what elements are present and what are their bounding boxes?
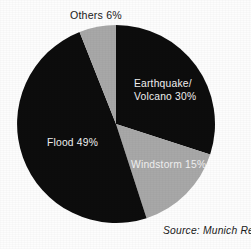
pie-chart-svg: Earthquake/ Volcano 30% Flood 49% Windst… <box>0 0 251 249</box>
source-annotation: Source: Munich Re <box>163 225 251 236</box>
slice-label-flood: Flood 49% <box>47 137 98 148</box>
slice-label-windstorm: Windstorm 15% <box>131 159 206 170</box>
slice-label-earthquake-volcano-line1: Earthquake/ <box>134 78 192 89</box>
pie-chart-figure: Earthquake/ Volcano 30% Flood 49% Windst… <box>0 0 251 249</box>
slice-label-earthquake-volcano-line2: Volcano 30% <box>134 91 196 102</box>
slice-label-others: Others 6% <box>70 9 122 21</box>
